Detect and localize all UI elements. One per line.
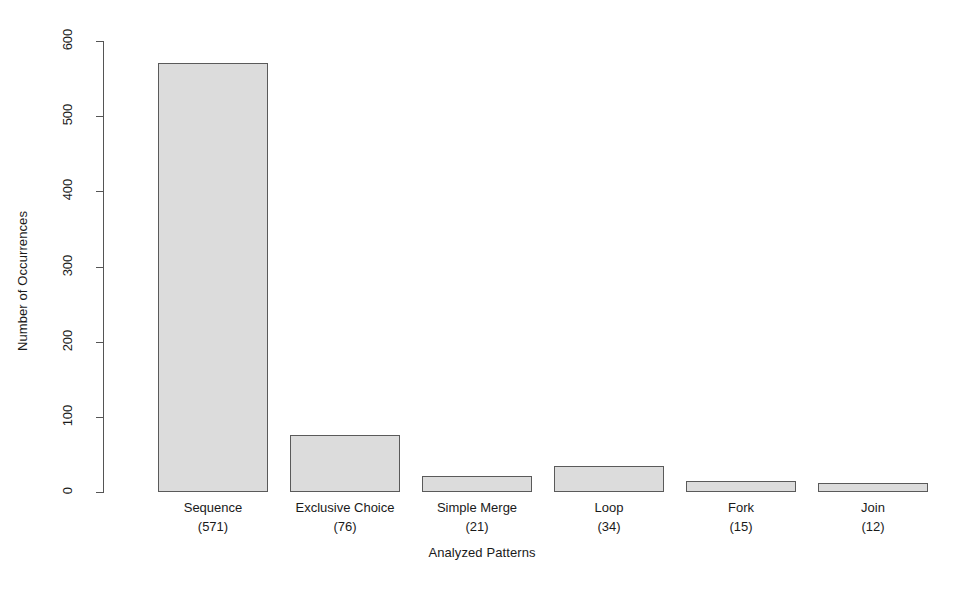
y-axis-tick <box>96 342 103 343</box>
y-axis-line <box>103 41 104 493</box>
bar <box>422 476 532 492</box>
x-axis-label: Join(12) <box>798 498 948 536</box>
x-axis-label-name: Join <box>798 498 948 517</box>
x-axis-label: Simple Merge(21) <box>402 498 552 536</box>
y-axis-tick-label: 600 <box>60 17 75 63</box>
x-axis-label-name: Fork <box>666 498 816 517</box>
x-axis-title: Analyzed Patterns <box>0 545 964 560</box>
x-axis-label-count: (21) <box>402 517 552 536</box>
y-axis-tick-label: 300 <box>60 243 75 289</box>
y-axis-tick <box>96 116 103 117</box>
bar <box>290 435 400 492</box>
y-axis-tick-label: 400 <box>60 167 75 213</box>
y-axis-tick <box>96 41 103 42</box>
bar-chart: Number of Occurrences 010020030040050060… <box>0 0 964 597</box>
y-axis-tick <box>96 191 103 192</box>
x-axis-label: Fork(15) <box>666 498 816 536</box>
x-axis-label-count: (571) <box>138 517 288 536</box>
y-axis-tick <box>96 492 103 493</box>
x-axis-label-count: (12) <box>798 517 948 536</box>
x-axis-label: Exclusive Choice(76) <box>270 498 420 536</box>
y-axis-tick <box>96 417 103 418</box>
x-axis-label-name: Exclusive Choice <box>270 498 420 517</box>
x-axis-label: Sequence(571) <box>138 498 288 536</box>
x-axis-label-count: (15) <box>666 517 816 536</box>
x-axis-label: Loop(34) <box>534 498 684 536</box>
bar <box>686 481 796 492</box>
x-axis-label-name: Sequence <box>138 498 288 517</box>
y-axis-tick-label: 500 <box>60 92 75 138</box>
bar <box>818 483 928 492</box>
x-axis-label-count: (34) <box>534 517 684 536</box>
y-axis-tick-label: 200 <box>60 318 75 364</box>
bar <box>554 466 664 492</box>
y-axis-tick-label: 100 <box>60 393 75 439</box>
x-axis-label-name: Loop <box>534 498 684 517</box>
x-axis-label-count: (76) <box>270 517 420 536</box>
y-axis-tick <box>96 267 103 268</box>
y-axis-title: Number of Occurrences <box>15 111 37 451</box>
x-axis-label-name: Simple Merge <box>402 498 552 517</box>
y-axis-tick-label: 0 <box>60 468 75 514</box>
bar <box>158 63 268 492</box>
